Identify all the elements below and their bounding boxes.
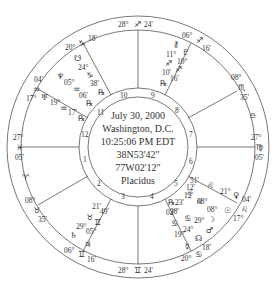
jupiter-minutes: 49' xyxy=(100,207,110,216)
natal-chart-wheel: 1 2 3 4 5 6 7 8 9 10 11 12 July 30, 2000… xyxy=(0,0,275,290)
moon-degree: 08° xyxy=(197,197,208,206)
saturn-sign-icon: ♉ xyxy=(86,213,93,222)
neptune-retrograde-icon: ℞ xyxy=(86,99,93,108)
cusp-11-sign-icon: ♑ xyxy=(78,39,85,48)
mars-sign-icon: ♋ xyxy=(184,214,191,223)
mc-minutes: 24' xyxy=(144,20,154,29)
asc-sign-icon: ♓ xyxy=(16,143,23,152)
dsc-minutes: 05' xyxy=(255,153,265,162)
house-number-1: 1 xyxy=(83,155,87,164)
intercepted-libra-icon: ♎ xyxy=(249,111,256,120)
south-node-minutes: 38' xyxy=(90,79,100,88)
ic-sign-icon: ♊ xyxy=(134,266,141,275)
house-number-8: 8 xyxy=(175,106,179,115)
mars-degree: 29° xyxy=(194,216,205,225)
saturn-degree: 29° xyxy=(76,222,87,231)
chiron-degree: 11° xyxy=(166,50,176,59)
dsc-degree: 27° xyxy=(251,133,262,142)
moon-icon: ☽ xyxy=(208,215,215,224)
chart-longitude: 77W02'12" xyxy=(115,162,160,173)
chart-info: July 30, 2000 Washington, D.C. 10:25:06 … xyxy=(101,110,175,186)
house-ring-outer xyxy=(79,88,197,206)
cusp-line-8 xyxy=(188,91,237,118)
chart-location: Washington, D.C. xyxy=(102,123,173,134)
uranus-minutes: 17' xyxy=(68,108,78,117)
mercury-icon: ☿ xyxy=(185,242,190,251)
moon-minutes: 12' xyxy=(186,183,196,192)
chiron-retrograde-icon: ℞ xyxy=(160,79,167,88)
cusp-8-degree: 08° xyxy=(231,73,242,82)
cusp-8-sign-icon: ♏ xyxy=(238,83,246,92)
cusp-2-minutes: 35' xyxy=(38,215,48,224)
cusp-2-degree: 08° xyxy=(25,196,36,205)
north-node-minutes: 23' xyxy=(175,198,185,207)
venus-sign-icon: ♌ xyxy=(207,181,214,190)
chiron-icon: ⚷ xyxy=(173,40,179,49)
cusp-3-minutes: 16' xyxy=(87,255,97,264)
jupiter-degree: 05° xyxy=(86,227,97,236)
house-number-7: 7 xyxy=(189,130,193,139)
cusp-12-sign-icon: ♒ xyxy=(33,85,40,94)
north-node-icon: ☊ xyxy=(195,234,202,243)
cusp-3-degree: 06° xyxy=(64,246,75,255)
uranus-retrograde-icon: ℞ xyxy=(78,114,85,123)
mc-sign-icon: ♐ xyxy=(134,20,141,29)
cusp-3-sign-icon: ♊ xyxy=(78,250,85,259)
mercury-degree: 19° xyxy=(174,230,185,239)
pluto-minutes: 16' xyxy=(170,74,180,83)
cusp-5-minutes: 18' xyxy=(202,243,212,252)
uranus-degree: 19° xyxy=(50,98,61,107)
cusp-6-degree: 17° xyxy=(233,214,244,223)
mc-degree: 28° xyxy=(118,20,129,29)
cusp-12-degree: 17° xyxy=(26,94,37,103)
ic-minutes: 24' xyxy=(144,266,154,275)
venus-degree: 21° xyxy=(220,187,231,196)
saturn-icon: ♄ xyxy=(70,231,77,240)
pluto-sign-icon: ♐ xyxy=(175,65,182,74)
mars-icon: ♂ xyxy=(206,226,213,235)
house-number-10: 10 xyxy=(120,91,128,100)
uranus-sign-icon: ♒ xyxy=(60,104,67,113)
mercury-minutes: 02' xyxy=(166,208,176,217)
cusp-line-2 xyxy=(38,176,88,205)
chiron-sign-icon: ♐ xyxy=(165,59,172,68)
cusp-labels: 28° ♐ 24' 28° ♊ 24' 27° ♓ 05' 27° ♍ 05' … xyxy=(13,20,265,275)
south-node-icon: ☋ xyxy=(74,54,81,63)
cusp-6-sign-icon: ♌ xyxy=(241,205,248,214)
cusp-2-sign-icon: ♉ xyxy=(33,206,40,215)
venus-icon: ♀ xyxy=(233,191,239,200)
chart-latitude: 38N53'42" xyxy=(116,149,159,160)
intercepted-aries-icon: ♈ xyxy=(22,173,29,182)
house-number-3: 3 xyxy=(121,192,125,201)
asc-degree: 27° xyxy=(13,133,24,142)
mercury-sign-icon: ♋ xyxy=(171,219,178,228)
house-number-11: 11 xyxy=(97,108,104,117)
house-cusp-lines xyxy=(21,30,255,264)
cusp-11-minutes: 18' xyxy=(88,34,98,43)
ic-degree: 28° xyxy=(118,266,129,275)
chart-house-system: Placidus xyxy=(121,175,155,186)
cusp-6-minutes: 04' xyxy=(242,195,252,204)
cusp-5-degree: 20° xyxy=(181,254,192,263)
cusp-9-minutes: 16' xyxy=(202,44,212,53)
jupiter-sign-icon: ♊ xyxy=(94,218,101,227)
chiron-minutes: 10' xyxy=(162,68,172,77)
north-node-degree: 24° xyxy=(183,225,194,234)
cusp-9-degree: 06° xyxy=(182,31,193,40)
asc-minutes: 05' xyxy=(15,153,25,162)
sun-degree: 08° xyxy=(207,205,218,214)
chart-time: 10:25:06 PM EDT xyxy=(101,136,175,147)
uranus-icon: ♅ xyxy=(41,93,48,102)
sun-icon: ☉ xyxy=(224,206,231,215)
cusp-11-degree: 20° xyxy=(65,43,76,52)
jupiter-icon: ♃ xyxy=(84,240,91,249)
south-node-retrograde-icon: ℞ xyxy=(98,88,105,97)
house-number-4: 4 xyxy=(150,192,154,201)
pluto-icon: ♇ xyxy=(182,48,189,57)
house-number-9: 9 xyxy=(151,91,155,100)
north-node-retrograde-icon: ℞ xyxy=(168,198,175,207)
cusp-12-minutes: 04' xyxy=(34,75,44,84)
house-number-6: 6 xyxy=(189,157,193,166)
house-number-2: 2 xyxy=(97,179,101,188)
house-number-12: 12 xyxy=(81,130,89,139)
